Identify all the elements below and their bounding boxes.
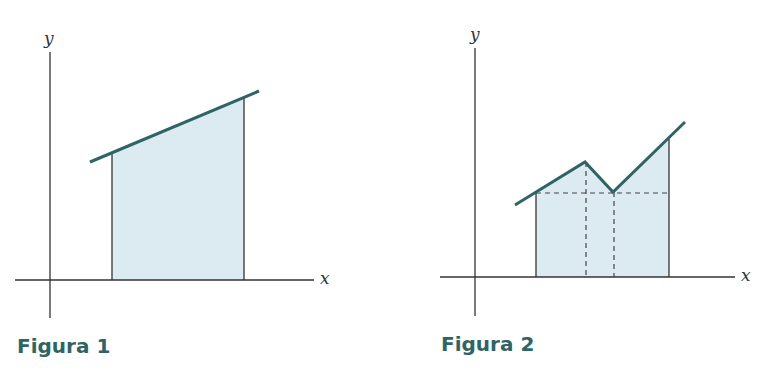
figure-2-y-label: y	[469, 24, 480, 44]
figure-1-y-label: y	[43, 28, 54, 48]
figure-2-x-label: x	[741, 265, 751, 285]
figure-2: y x	[440, 24, 751, 316]
figures-canvas: y x y x	[0, 0, 761, 370]
figure-1: y x	[15, 28, 330, 318]
figure-2-caption: Figura 2	[441, 332, 534, 356]
figure-2-shaded-area	[536, 139, 669, 277]
figure-1-caption: Figura 1	[17, 334, 110, 358]
figure-1-x-label: x	[320, 268, 330, 288]
